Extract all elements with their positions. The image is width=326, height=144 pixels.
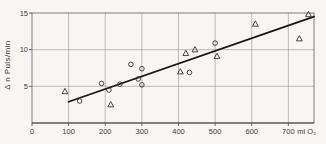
x-tick-label: 500 bbox=[209, 127, 222, 136]
y-axis-title: Δ n Puls/min bbox=[3, 9, 15, 121]
x-tick-label: 300 bbox=[136, 127, 149, 136]
y-tick-label: 15 bbox=[20, 9, 28, 18]
data-point-triangle bbox=[192, 47, 198, 52]
scatter-chart: 0100200300400500600700ml O₂51015 bbox=[0, 0, 326, 144]
scatter-plot-figure: 0100200300400500600700ml O₂51015 Δ n Pul… bbox=[0, 0, 326, 144]
x-tick-label: 0 bbox=[30, 127, 34, 136]
y-tick-label: 5 bbox=[24, 82, 28, 91]
data-point-triangle bbox=[183, 50, 189, 55]
data-point-triangle bbox=[306, 11, 312, 16]
x-tick-label: 200 bbox=[99, 127, 112, 136]
data-point-circle bbox=[77, 99, 82, 104]
x-tick-label: 700 bbox=[282, 127, 295, 136]
data-point-circle bbox=[129, 62, 134, 67]
data-point-circle bbox=[187, 70, 192, 75]
x-tick-label: 400 bbox=[172, 127, 185, 136]
data-point-triangle bbox=[253, 21, 259, 26]
data-point-triangle bbox=[296, 36, 302, 41]
plot-frame bbox=[32, 13, 314, 123]
data-point-triangle bbox=[108, 102, 114, 107]
x-tick-label: 100 bbox=[62, 127, 75, 136]
data-point-triangle bbox=[62, 88, 68, 93]
x-tick-label: 600 bbox=[245, 127, 258, 136]
data-point-circle bbox=[99, 81, 104, 86]
y-tick-label: 10 bbox=[20, 45, 28, 54]
x-axis-unit-label: ml O₂ bbox=[297, 127, 316, 136]
